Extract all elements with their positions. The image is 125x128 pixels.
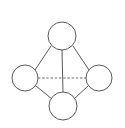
edge-top-left	[35, 46, 51, 70]
node-left	[12, 65, 38, 91]
node-bottom	[49, 92, 77, 120]
graph-diagram	[0, 0, 125, 128]
edge-left-bottom	[36, 86, 52, 99]
node-right	[86, 65, 112, 91]
node-top	[48, 22, 76, 50]
edge-top-bottom	[62, 50, 63, 92]
diagram-canvas	[0, 0, 125, 128]
edge-right-bottom	[74, 86, 88, 99]
edge-top-right	[73, 46, 89, 70]
